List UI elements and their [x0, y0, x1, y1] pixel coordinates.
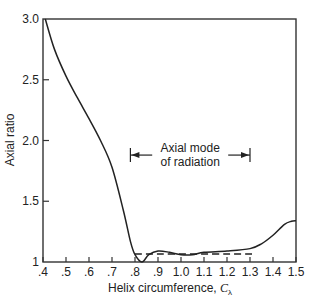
x-tick-label: .9: [153, 265, 163, 279]
axial-ratio-chart: .4.5.6.7.8.91.01.11.21.31.41.5 11.52.02.…: [0, 0, 317, 307]
x-tick-label: 1.1: [196, 265, 213, 279]
y-tick-label: 2.0: [22, 134, 39, 148]
x-tick-label: 1.5: [288, 265, 305, 279]
y-tick-label: 1.5: [22, 194, 39, 208]
x-tick-label: .8: [130, 265, 140, 279]
x-tick-label: 1.3: [242, 265, 259, 279]
x-tick-label: .4: [38, 265, 48, 279]
y-tick-label: 3.0: [22, 12, 39, 26]
x-tick-label: .6: [84, 265, 94, 279]
x-tick-label: .5: [61, 265, 71, 279]
y-tick-label: 1: [32, 255, 39, 269]
y-tick-label: 2.5: [22, 73, 39, 87]
annotation-line-2: of radiation: [161, 155, 220, 169]
x-tick-label: 1.0: [173, 265, 190, 279]
x-axis-ticks: .4.5.6.7.8.91.01.11.21.31.41.5: [38, 257, 305, 279]
y-axis-label: Axial ratio: [3, 113, 17, 166]
x-tick-label: .7: [107, 265, 117, 279]
y-axis-ticks: 11.52.02.53.0: [22, 12, 49, 269]
x-tick-label: 1.2: [219, 265, 236, 279]
x-tick-label: 1.4: [265, 265, 282, 279]
annotation-line-1: Axial mode: [161, 141, 221, 155]
x-axis-label: Helix circumference, Cλ: [108, 281, 232, 297]
axial-mode-annotation: Axial modeof radiation: [130, 141, 250, 169]
